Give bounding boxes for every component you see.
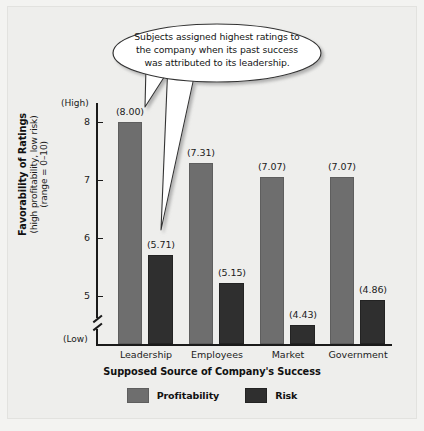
y-axis-line-upper — [96, 103, 98, 318]
y-axis-title: Favorability of Ratings (high profitabil… — [17, 79, 50, 269]
y-tick-6 — [97, 238, 103, 239]
bar-risk-government — [360, 300, 385, 344]
bar-risk-employees — [219, 283, 244, 344]
value-label-profitability-employees: (7.31) — [177, 147, 225, 158]
legend-item-profitability: Profitability — [127, 388, 246, 403]
y-axis-low-label: (Low) — [63, 334, 88, 344]
y-axis-high-label: (High) — [61, 98, 89, 108]
bar-risk-market — [290, 325, 315, 344]
bar-profitability-government — [330, 177, 354, 344]
callout-text: Subjects assigned highest ratings to the… — [128, 31, 306, 69]
y-axis-line-lower — [96, 329, 98, 345]
bar-profitability-leadership — [118, 122, 142, 344]
bar-risk-leadership — [148, 255, 173, 344]
x-category-employees: Employees — [182, 349, 252, 360]
legend-label-profitability: Profitability — [157, 390, 220, 401]
figure-root: Favorability of Ratings (high profitabil… — [0, 0, 424, 431]
y-tick-label-5: 5 — [72, 290, 90, 301]
x-category-government: Government — [322, 349, 394, 360]
y-tick-label-8: 8 — [72, 116, 90, 127]
y-axis-title-main: Favorability of Ratings — [17, 79, 29, 269]
y-tick-8 — [97, 122, 103, 123]
y-axis-title-sub1: (high profitability, low risk) — [28, 79, 39, 269]
x-category-market: Market — [253, 349, 323, 360]
bar-profitability-employees — [189, 163, 213, 344]
legend-label-risk: Risk — [275, 390, 297, 401]
legend-item-risk: Risk — [245, 388, 297, 403]
x-axis-line — [96, 344, 392, 346]
y-tick-7 — [97, 180, 103, 181]
value-label-risk-leadership: (5.71) — [137, 239, 185, 250]
legend-swatch-risk — [245, 388, 267, 403]
value-label-profitability-market: (7.07) — [248, 161, 296, 172]
value-label-profitability-government: (7.07) — [318, 161, 366, 172]
value-label-risk-government: (4.86) — [349, 284, 397, 295]
callout-line-3: was attributed to its leadership. — [128, 57, 306, 70]
chart-legend: Profitability Risk — [0, 388, 424, 403]
callout-line-2: the company when its past success — [128, 44, 306, 57]
x-axis-title: Supposed Source of Company's Success — [0, 366, 424, 377]
callout-line-1: Subjects assigned highest ratings to — [128, 31, 306, 44]
value-label-profitability-leadership: (8.00) — [106, 106, 154, 117]
y-tick-label-7: 7 — [72, 174, 90, 185]
value-label-risk-market: (4.43) — [279, 309, 327, 320]
value-label-risk-employees: (5.15) — [208, 267, 256, 278]
y-axis-title-sub2: (range = 0–10) — [39, 79, 50, 269]
x-category-leadership: Leadership — [111, 349, 181, 360]
y-tick-label-6: 6 — [72, 232, 90, 243]
legend-swatch-profitability — [127, 388, 149, 403]
y-tick-5 — [97, 296, 103, 297]
